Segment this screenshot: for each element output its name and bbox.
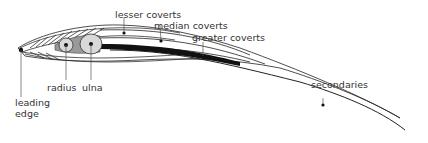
label-median-coverts: median coverts	[154, 20, 228, 31]
label-secondaries: secondaries	[311, 79, 368, 90]
label-leading-edge-1: leading	[15, 97, 50, 108]
label-radius: radius	[47, 82, 76, 93]
label-leading-edge-2: edge	[15, 108, 39, 119]
label-greater-coverts: greater coverts	[192, 32, 265, 43]
label-ulna: ulna	[82, 82, 103, 93]
label-lesser-coverts: lesser coverts	[115, 9, 181, 20]
